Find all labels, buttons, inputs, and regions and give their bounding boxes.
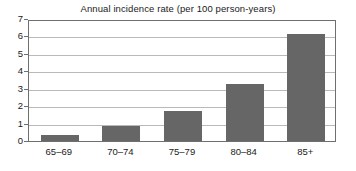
bar: [164, 111, 202, 141]
chart-title: Annual incidence rate (per 100 person-ye…: [0, 3, 356, 15]
bar: [41, 135, 79, 141]
y-axis-label: 7: [3, 14, 23, 24]
y-axis-label: 2: [3, 101, 23, 111]
x-axis-label: 70–74: [90, 146, 152, 158]
bar: [226, 84, 264, 141]
x-axis-label: 75–79: [151, 146, 213, 158]
y-axis-label: 1: [3, 119, 23, 129]
y-axis-label: 6: [3, 31, 23, 41]
x-axis-label: 85+: [274, 146, 336, 158]
y-axis-label: 5: [3, 49, 23, 59]
x-axis: 65–6970–7475–7980–8485+: [28, 146, 336, 162]
bar: [102, 126, 140, 141]
bar-chart-figure: Annual incidence rate (per 100 person-ye…: [0, 0, 356, 171]
plot-area: [28, 20, 336, 142]
x-axis-label: 65–69: [28, 146, 90, 158]
y-axis-label: 4: [3, 66, 23, 76]
x-axis-label: 80–84: [213, 146, 275, 158]
y-axis-label: 0: [3, 136, 23, 146]
y-axis-label: 3: [3, 84, 23, 94]
bar: [287, 34, 325, 141]
y-axis: 01234567: [0, 0, 23, 171]
bars-group: [29, 21, 335, 141]
